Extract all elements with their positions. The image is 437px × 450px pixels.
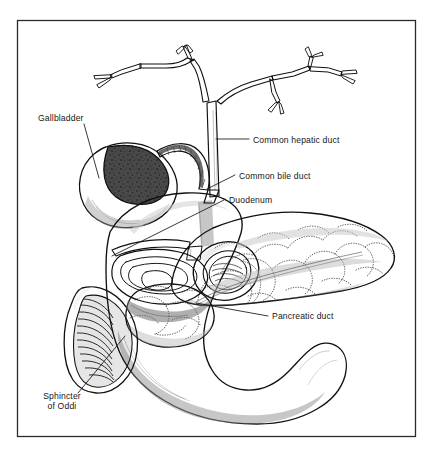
figure-root: Gallbladder Common hepatic duct Common b… <box>0 0 437 450</box>
leader-gallbladder <box>84 124 99 178</box>
label-gallbladder: Gallbladder <box>38 113 84 123</box>
label-sphincter-of-oddi-line2: of Oddi <box>48 401 77 411</box>
label-sphincter-of-oddi: Sphincter <box>43 391 81 401</box>
leader-common-bile-duct <box>207 175 235 189</box>
label-pancreatic-duct: Pancreatic duct <box>272 311 334 321</box>
figure-frame <box>18 21 416 437</box>
label-common-hepatic-duct: Common hepatic duct <box>253 135 340 145</box>
label-common-bile-duct: Common bile duct <box>239 171 311 181</box>
anatomy-illustration: Gallbladder Common hepatic duct Common b… <box>0 0 437 450</box>
label-duodenum: Duodenum <box>229 195 272 205</box>
sphincter-folds <box>60 286 146 396</box>
